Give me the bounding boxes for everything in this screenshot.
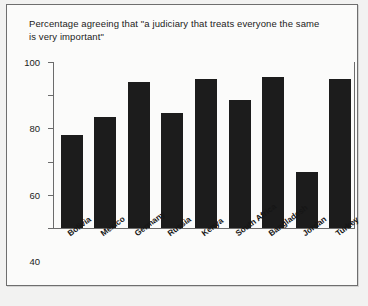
bar xyxy=(128,82,150,228)
y-tick-label: 100 xyxy=(24,57,40,68)
bar xyxy=(94,117,116,228)
y-tick-mark: 60 xyxy=(48,128,53,129)
bar xyxy=(61,135,83,228)
chart-title: Percentage agreeing that "a judiciary th… xyxy=(29,17,329,43)
figure: Percentage agreeing that "a judiciary th… xyxy=(0,0,368,306)
right-spine xyxy=(354,62,355,229)
y-tick-mark: 20 xyxy=(48,195,53,196)
y-axis-spine xyxy=(53,62,54,229)
y-tick-label: 40 xyxy=(29,256,40,267)
y-tick-label: 80 xyxy=(29,123,40,134)
bar xyxy=(161,113,183,228)
y-tick-mark: 40 xyxy=(48,162,53,163)
y-tick-mark: 100 xyxy=(48,62,53,63)
y-tick-mark: 0 xyxy=(48,228,53,229)
y-tick-label: 60 xyxy=(29,189,40,200)
bar xyxy=(329,79,351,228)
bar xyxy=(229,100,251,228)
plot-area: 020406080100 BoliviaMexicoGermanyRussiaK… xyxy=(53,62,355,229)
chart-frame: Percentage agreeing that "a judiciary th… xyxy=(6,4,358,286)
bar xyxy=(195,79,217,228)
y-tick-mark: 80 xyxy=(48,95,53,96)
